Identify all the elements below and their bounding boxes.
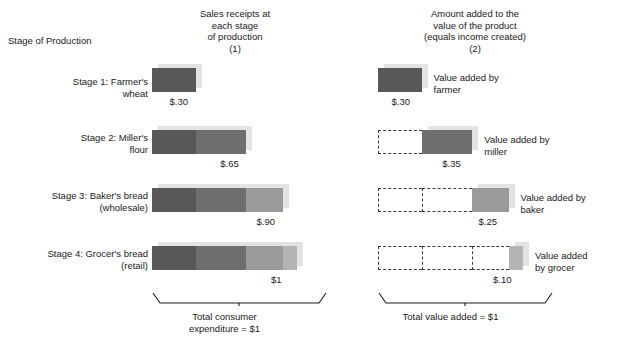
column-1-header-line-2: each stage <box>212 20 258 31</box>
value-added-bar-segments-stage-4 <box>378 246 523 270</box>
receipts-segment-farmer <box>152 68 196 92</box>
row-label-stage-2-line-1: Stage 2: Miller's <box>81 132 148 143</box>
receipts-bar-segments-stage-1 <box>152 68 196 92</box>
row-label-stage-4: Stage 4: Grocer's bread(retail) <box>8 248 148 272</box>
receipts-value-stage-2: $.65 <box>220 158 239 169</box>
prior-value-box-2-stage-3 <box>422 188 473 212</box>
receipts-segment-miller <box>196 130 247 154</box>
row-label-stage-3-line-2: (wholesale) <box>8 202 148 214</box>
value-added-bar-segments-stage-3 <box>378 188 509 212</box>
column-2-header-line-1: Amount added to the <box>431 8 519 19</box>
total-consumer-expenditure-brace <box>152 292 297 306</box>
value-added-legend-stage-3-line-2: baker <box>521 204 586 216</box>
column-2-number: (2) <box>390 43 560 55</box>
row-label-stage-4-line-2: (retail) <box>8 260 148 272</box>
receipts-segment-farmer <box>152 188 196 212</box>
receipts-bar-stage-1 <box>152 68 196 92</box>
receipts-value-stage-1: $.30 <box>170 96 189 107</box>
value-added-legend-stage-4-line-1: Value added <box>535 250 588 261</box>
receipts-segment-miller <box>196 188 247 212</box>
value-added-bar-stage-3 <box>378 188 509 212</box>
receipts-bar-stage-3 <box>152 188 283 212</box>
row-label-stage-1: Stage 1: Farmer'swheat <box>8 76 148 100</box>
receipts-segment-miller <box>196 246 247 270</box>
receipts-value-stage-4: $1 <box>271 274 282 285</box>
row-label-stage-2-line-2: flour <box>8 144 148 156</box>
value-added-bar-stage-2 <box>378 130 472 154</box>
receipts-bar-segments-stage-3 <box>152 188 283 212</box>
column-1-header-line-3: of production <box>208 31 263 42</box>
value-added-amount-stage-4: $.10 <box>493 274 512 285</box>
row-label-stage-2: Stage 2: Miller'sflour <box>8 132 148 156</box>
receipts-bar-stage-2 <box>152 130 246 154</box>
receipts-bar-segments-stage-2 <box>152 130 246 154</box>
row-label-stage-3-line-1: Stage 3: Baker's bread <box>52 190 148 201</box>
receipts-segment-baker <box>246 246 282 270</box>
prior-value-box-2-stage-4 <box>422 246 473 270</box>
row-label-stage-1-line-2: wheat <box>8 88 148 100</box>
receipts-value-stage-3: $.90 <box>257 216 276 227</box>
column-2-header: Amount added to the value of the product… <box>390 8 560 54</box>
receipts-bar-segments-stage-4 <box>152 246 297 270</box>
value-added-legend-stage-1: Value added byfarmer <box>434 72 499 95</box>
receipts-segment-baker <box>246 188 282 212</box>
value-added-amount-stage-1: $.30 <box>392 96 411 107</box>
value-added-legend-stage-2-line-1: Value added by <box>484 134 549 145</box>
prior-value-box-1-stage-2 <box>378 130 422 154</box>
value-added-legend-stage-4-line-2: by grocer <box>535 262 588 274</box>
row-label-stage-3: Stage 3: Baker's bread(wholesale) <box>8 190 148 214</box>
value-added-bar-segments-stage-2 <box>378 130 472 154</box>
value-added-legend-stage-3-line-1: Value added by <box>521 192 586 203</box>
total-consumer-expenditure-label: Total consumer expenditure = $1 <box>132 311 317 334</box>
total-value-added-brace <box>378 292 523 306</box>
value-added-segment-stage-4 <box>509 246 524 270</box>
value-added-segment-stage-1 <box>378 68 422 92</box>
receipts-segment-grocer <box>283 246 298 270</box>
row-label-stage-4-line-1: Stage 4: Grocer's bread <box>47 248 148 259</box>
prior-value-box-3-stage-4 <box>472 246 508 270</box>
column-1-header-line-1: Sales receipts at <box>200 8 270 19</box>
total-value-added-label: Total value added = $1 <box>358 311 543 323</box>
row-label-stage-1-line-1: Stage 1: Farmer's <box>73 76 148 87</box>
value-added-segment-stage-2 <box>422 130 473 154</box>
value-added-legend-stage-3: Value added bybaker <box>521 192 586 215</box>
column-2-header-line-3: (equals income created) <box>424 31 526 42</box>
receipts-bar-stage-4 <box>152 246 297 270</box>
receipts-segment-farmer <box>152 246 196 270</box>
value-added-legend-stage-2: Value added bymiller <box>484 134 549 157</box>
value-added-amount-stage-3: $.25 <box>479 216 498 227</box>
column-2-header-line-2: value of the product <box>433 20 516 31</box>
value-added-bar-stage-4 <box>378 246 523 270</box>
prior-value-box-1-stage-3 <box>378 188 422 212</box>
prior-value-box-1-stage-4 <box>378 246 422 270</box>
value-added-bar-stage-1 <box>378 68 422 92</box>
value-added-bar-segments-stage-1 <box>378 68 422 92</box>
column-1-header: Sales receipts at each stage of producti… <box>160 8 310 54</box>
value-added-legend-stage-1-line-1: Value added by <box>434 72 499 83</box>
total-value-added-line-1: Total value added = $1 <box>403 311 499 322</box>
value-added-amount-stage-2: $.35 <box>442 158 461 169</box>
value-added-legend-stage-4: Value addedby grocer <box>535 250 588 273</box>
receipts-segment-farmer <box>152 130 196 154</box>
value-added-legend-stage-2-line-2: miller <box>484 146 549 158</box>
value-added-legend-stage-1-line-2: farmer <box>434 84 499 96</box>
stage-of-production-header: Stage of Production <box>8 35 91 46</box>
column-1-number: (1) <box>160 43 310 55</box>
total-consumer-expenditure-line-1: Total consumer <box>192 311 256 322</box>
total-consumer-expenditure-line-2: expenditure = $1 <box>189 323 260 334</box>
value-added-segment-stage-3 <box>472 188 508 212</box>
